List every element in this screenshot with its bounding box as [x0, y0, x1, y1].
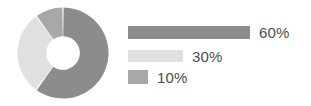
legend-swatch-10: [128, 70, 148, 84]
legend-label-60: 60%: [259, 25, 290, 40]
chart-legend: 60% 30% 10%: [128, 20, 311, 90]
chart-figure: 60% 30% 10%: [0, 0, 311, 106]
legend-swatch-30: [128, 50, 183, 62]
legend-item-60[interactable]: 60%: [128, 24, 290, 40]
donut-chart: [17, 7, 109, 99]
donut-chart-svg: [17, 7, 109, 99]
legend-item-10[interactable]: 10%: [128, 69, 188, 85]
donut-slice-group: [18, 8, 109, 99]
legend-label-30: 30%: [192, 49, 223, 64]
legend-label-10: 10%: [157, 70, 188, 85]
legend-item-30[interactable]: 30%: [128, 48, 223, 64]
legend-swatch-60: [128, 26, 250, 39]
